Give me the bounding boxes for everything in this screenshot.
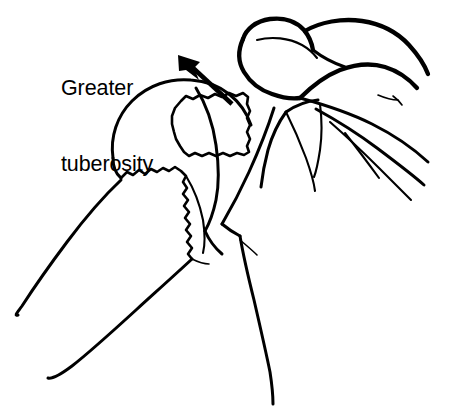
lateral-border <box>240 236 273 404</box>
label-line-1: Greater <box>61 76 153 101</box>
coracoid <box>261 100 322 191</box>
clavicle <box>300 20 428 98</box>
lateral-soft-tissue-lines <box>300 95 428 200</box>
anatomical-figure: Greater tuberosity <box>0 0 467 415</box>
greater-tuberosity-label: Greater tuberosity <box>61 25 153 228</box>
label-line-2: tuberosity <box>61 152 153 177</box>
